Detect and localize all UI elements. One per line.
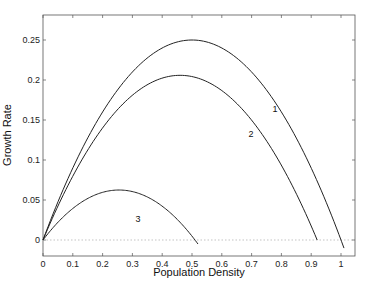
y-tick-label: 0 <box>35 235 40 245</box>
curve-label-3: 3 <box>135 214 140 224</box>
x-tick-label: 0.7 <box>245 259 258 269</box>
curve-label-2: 2 <box>249 129 254 139</box>
y-tick-label: 0.15 <box>22 115 40 125</box>
y-tick-label: 0.1 <box>27 155 40 165</box>
y-axis-label: Growth Rate <box>1 104 13 166</box>
x-tick-label: 0.1 <box>67 259 80 269</box>
y-tick-label: 0.05 <box>22 195 40 205</box>
x-tick-label: 0.9 <box>305 259 318 269</box>
growth-rate-chart: 00.10.20.30.40.50.60.70.80.9100.050.10.1… <box>0 0 367 288</box>
curve-label-1: 1 <box>272 104 277 114</box>
y-tick-label: 0.2 <box>27 75 40 85</box>
x-tick-label: 0.2 <box>96 259 109 269</box>
x-tick-label: 0.3 <box>126 259 139 269</box>
y-tick-label: 0.25 <box>22 35 40 45</box>
x-axis-label: Population Density <box>153 266 245 278</box>
x-tick-label: 0 <box>40 259 45 269</box>
x-tick-label: 1 <box>338 259 343 269</box>
x-tick-label: 0.8 <box>275 259 288 269</box>
